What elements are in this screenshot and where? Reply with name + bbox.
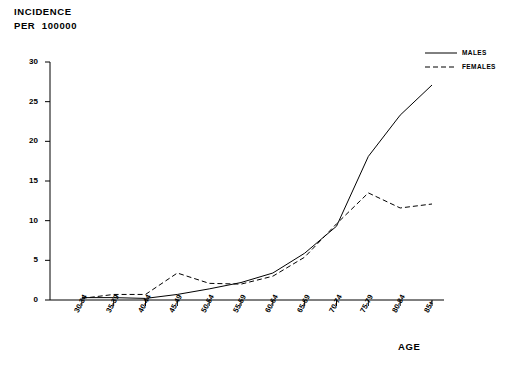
series-line-males [82,85,432,298]
series-line-females [82,193,432,299]
chart-figure: INCIDENCE PER 100000 AGE 051015202530 30… [0,0,512,370]
plot-area [0,0,512,370]
